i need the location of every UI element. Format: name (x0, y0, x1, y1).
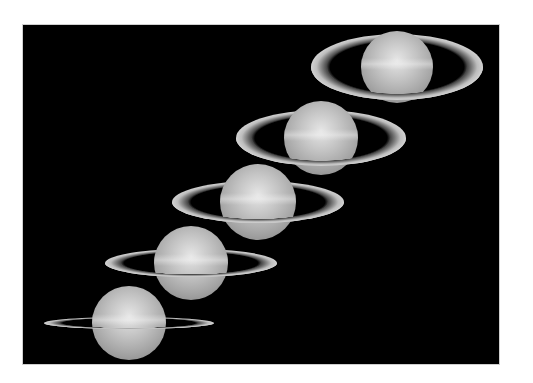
ring-front (311, 67, 483, 101)
ring-front (236, 138, 406, 167)
ring-front (172, 202, 344, 224)
image-frame (22, 24, 500, 365)
ring-front (44, 323, 214, 330)
ring-front (105, 263, 277, 278)
